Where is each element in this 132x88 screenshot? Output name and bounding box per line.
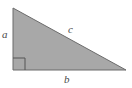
label-leg-a: a [2, 29, 8, 40]
label-leg-b: b [64, 74, 70, 85]
right-triangle-figure: a c b [0, 0, 132, 88]
label-hypotenuse-c: c [68, 24, 73, 35]
triangle-shape [13, 8, 126, 70]
